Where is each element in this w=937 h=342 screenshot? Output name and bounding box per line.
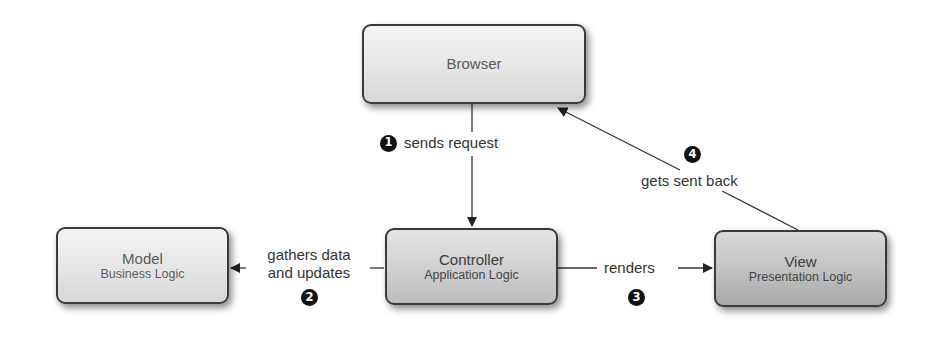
step-4-label: gets sent back [641, 172, 738, 190]
step-3-badge: 3 [628, 289, 645, 306]
step-3-label: renders [604, 259, 655, 277]
model-title: Model [122, 250, 163, 267]
step-2-label: gathers data and updates [252, 246, 366, 282]
view-subtitle: Presentation Logic [749, 270, 853, 284]
edge-gets-sent-back [558, 108, 798, 230]
view-node: View Presentation Logic [714, 230, 887, 307]
step-4-badge: 4 [684, 146, 701, 163]
step-3-text: renders [604, 259, 655, 276]
model-node: Model Business Logic [56, 227, 229, 304]
step-2-text-line2: and updates [252, 264, 366, 282]
step-1-badge: 1 [380, 135, 397, 152]
mvc-diagram: Browser Model Business Logic Controller … [0, 0, 937, 342]
controller-title: Controller [439, 251, 504, 268]
step-1-label: 1 sends request [380, 134, 498, 152]
step-1-text: sends request [404, 134, 498, 152]
browser-node: Browser [362, 24, 586, 104]
controller-node: Controller Application Logic [385, 228, 558, 305]
step-4-text: gets sent back [641, 172, 738, 189]
view-title: View [784, 253, 816, 270]
controller-subtitle: Application Logic [424, 268, 519, 282]
model-subtitle: Business Logic [100, 267, 184, 281]
step-2-text-line1: gathers data [252, 246, 366, 264]
browser-title: Browser [446, 55, 501, 72]
step-2-badge: 2 [301, 289, 318, 306]
